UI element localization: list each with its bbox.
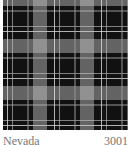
swatch-name[interactable]: Nevada	[3, 134, 40, 145]
swatch-caption: Nevada 3001	[3, 134, 128, 145]
swatch-code: 3001	[104, 134, 128, 145]
plaid-swatch-image[interactable]	[3, 0, 128, 130]
